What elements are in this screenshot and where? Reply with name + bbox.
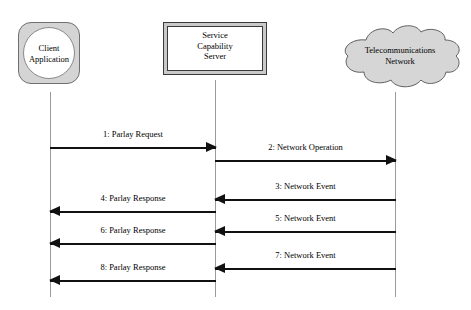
message-arrow-6[interactable]: [50, 238, 216, 249]
message-shaft-3: [215, 199, 396, 201]
cloud-icon: [336, 20, 464, 92]
message-shaft-6: [50, 243, 216, 245]
lifeline-client-application: [50, 92, 51, 297]
message-label-3: 3: Network Event: [215, 181, 396, 192]
message-label-1: 1: Parlay Request: [50, 129, 216, 140]
message-shaft-2: [215, 160, 396, 162]
message-shaft-1: [50, 147, 216, 149]
message-arrow-1[interactable]: [50, 142, 216, 153]
message-arrow-4[interactable]: [50, 206, 216, 217]
message-arrow-3[interactable]: [215, 194, 396, 205]
arrowhead-left-icon: [214, 263, 225, 273]
service-capability-server-inner-panel: [167, 26, 263, 71]
message-label-2: 2: Network Operation: [215, 142, 396, 153]
message-label-7: 7: Network Event: [215, 250, 396, 261]
message-shaft-8: [50, 280, 216, 282]
message-shaft-5: [215, 231, 396, 233]
arrowhead-right-icon: [206, 142, 217, 152]
arrowhead-left-icon: [214, 226, 225, 236]
arrowhead-left-icon: [49, 238, 60, 248]
message-arrow-7[interactable]: [215, 263, 396, 274]
message-arrow-5[interactable]: [215, 226, 396, 237]
arrowhead-right-icon: [386, 155, 397, 165]
sequence-diagram-canvas: Client Application Service Capability Se…: [0, 0, 471, 310]
message-label-8: 8: Parlay Response: [50, 262, 216, 273]
arrowhead-left-icon: [49, 206, 60, 216]
message-arrow-8[interactable]: [50, 275, 216, 286]
participant-service-capability-server[interactable]: [163, 22, 267, 75]
arrowhead-left-icon: [49, 275, 60, 285]
participant-client-application[interactable]: [18, 22, 80, 84]
message-arrow-2[interactable]: [215, 155, 396, 166]
message-label-5: 5: Network Event: [215, 213, 396, 224]
message-shaft-7: [215, 268, 396, 270]
message-label-6: 6: Parlay Response: [50, 225, 216, 236]
client-application-inner-circle: [23, 27, 75, 79]
message-label-4: 4: Parlay Response: [50, 193, 216, 204]
arrowhead-left-icon: [214, 194, 225, 204]
participant-telecommunications-network[interactable]: [336, 20, 464, 92]
message-shaft-4: [50, 211, 216, 213]
